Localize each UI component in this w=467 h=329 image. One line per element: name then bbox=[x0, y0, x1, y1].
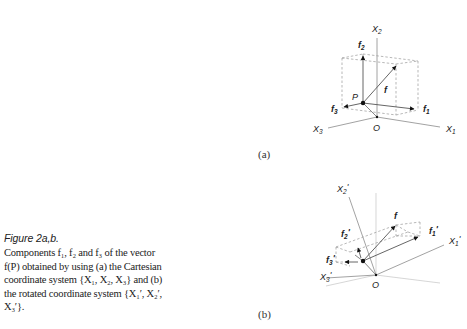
caption-body: Components f₁, f₂ and f₃ of the vector f… bbox=[4, 246, 174, 314]
arrow-f3 bbox=[344, 103, 363, 107]
diagram-b: X2' f f2' f1' X1' f3' X3' O bbox=[319, 182, 461, 290]
panel-label-b: (b) bbox=[258, 308, 271, 320]
point-p-dot bbox=[361, 101, 365, 105]
label-f3: f3 bbox=[331, 104, 338, 115]
caption-line-5: X₃′}. bbox=[4, 301, 24, 312]
origin-dot bbox=[376, 116, 378, 118]
label-x3-prime: X3' bbox=[319, 270, 332, 283]
label-x2: X2 bbox=[371, 24, 382, 35]
caption-line-3: coordinate system {X₁, X₂, X₃} and (b) bbox=[4, 274, 162, 285]
axes-a bbox=[328, 38, 440, 128]
caption-line-4: the rotated coordinate system {X₁′, X₂′, bbox=[4, 288, 162, 299]
figure-caption: Figure 2a,b. Components f₁, f₂ and f₃ of… bbox=[4, 232, 174, 314]
label-f2: f2 bbox=[358, 40, 365, 51]
arrow-f1-prime bbox=[363, 237, 418, 261]
label-p: P bbox=[352, 92, 358, 102]
axis-x2-prime bbox=[349, 197, 376, 275]
label-f3-prime: f3' bbox=[326, 253, 336, 266]
position-vector-p bbox=[363, 103, 377, 117]
axis-x1 bbox=[377, 117, 440, 127]
origin-dot-b bbox=[375, 274, 377, 276]
label-f2-prime: f2' bbox=[341, 227, 351, 240]
component-arrows-b bbox=[345, 226, 418, 262]
label-x1-prime: X1' bbox=[448, 234, 461, 247]
label-f1-prime: f1' bbox=[429, 224, 439, 237]
arrow-f bbox=[363, 66, 396, 103]
arrow-f2-prime bbox=[358, 248, 361, 258]
caption-title: Figure 2a,b. bbox=[4, 232, 174, 244]
caption-line-2: f(P) obtained by using (a) the Cartesian bbox=[4, 261, 162, 272]
label-f: f bbox=[384, 85, 388, 95]
panel-label-a: (a) bbox=[258, 148, 270, 160]
label-x2-prime: X2' bbox=[336, 182, 349, 195]
label-f-b: f bbox=[394, 211, 398, 221]
label-f1: f1 bbox=[423, 104, 430, 115]
axis-x3 bbox=[328, 117, 377, 128]
caption-line-1: Components f₁, f₂ and f₃ of the vector bbox=[4, 247, 155, 258]
label-o-b: O bbox=[372, 280, 379, 290]
arrow-f1 bbox=[363, 103, 414, 109]
label-o: O bbox=[373, 123, 380, 133]
point-p-dot-b bbox=[361, 259, 365, 263]
label-x3: X3 bbox=[312, 124, 323, 135]
axis-x1-prime bbox=[376, 245, 444, 275]
diagram-a: X2 f2 f P f3 f1 X3 O X1 bbox=[312, 24, 456, 135]
label-x1: X1 bbox=[445, 124, 456, 135]
